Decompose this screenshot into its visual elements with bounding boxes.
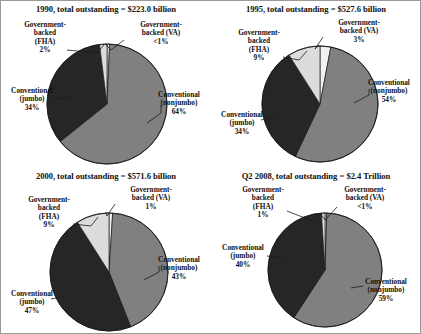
chart-panel-1990: 1990, total outstanding = $223.0 billion… [1, 1, 211, 168]
chart-panel-2000: 2000, total outstanding = $571.6 billion… [1, 168, 211, 334]
leader-lines [211, 168, 421, 334]
pie-chart-figure: 1990, total outstanding = $223.0 billion… [0, 0, 421, 334]
chart-panel-q2-2008: Q2 2008, total outstanding = $2.4 Trilli… [211, 168, 421, 334]
leader-lines [1, 1, 211, 168]
chart-panel-1995: 1995, total outstanding = $527.6 billion… [211, 1, 421, 168]
leader-lines [1, 168, 211, 334]
leader-lines [211, 1, 421, 168]
